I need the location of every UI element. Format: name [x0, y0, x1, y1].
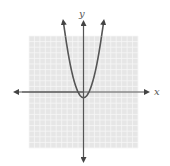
- coordinate-plane: x y: [0, 0, 170, 166]
- parabola-arrow-left: [63, 22, 65, 37]
- y-axis-label: y: [78, 8, 85, 19]
- x-axis-label: x: [154, 86, 160, 97]
- parabola-arrow-right: [101, 22, 103, 37]
